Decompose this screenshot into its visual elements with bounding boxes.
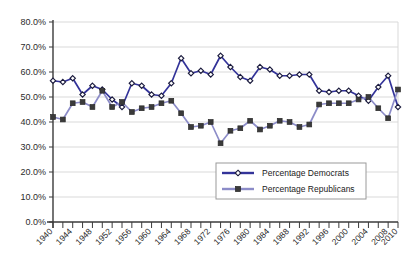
data-point-marker [386, 116, 391, 121]
data-point-marker [51, 115, 56, 120]
data-point-marker [238, 126, 243, 131]
data-point-marker [100, 88, 105, 93]
series-line [53, 56, 398, 107]
x-tick-label: 1940 [34, 226, 55, 247]
data-point-marker [327, 101, 332, 106]
data-point-marker [326, 89, 331, 94]
data-point-marker [70, 101, 75, 106]
data-point-marker [248, 118, 253, 123]
series-line [53, 90, 398, 144]
data-point-marker [159, 101, 164, 106]
x-tick-label: 1956 [113, 226, 134, 247]
y-tick-label: 0.0% [25, 217, 46, 227]
x-tick-label: 1996 [310, 226, 331, 247]
data-point-marker [258, 127, 263, 132]
data-point-marker [297, 125, 302, 130]
x-tick-label: 1972 [192, 226, 213, 247]
data-point-marker [80, 100, 85, 105]
x-tick-label: 1952 [93, 226, 114, 247]
data-point-marker [346, 101, 351, 106]
legend: Percentage DemocratsPercentage Republica… [216, 163, 366, 199]
y-tick-label: 40.0% [20, 117, 46, 127]
data-point-marker [120, 100, 125, 105]
data-point-marker [287, 73, 292, 78]
x-tick-label: 1992 [290, 226, 311, 247]
data-point-marker [198, 123, 203, 128]
y-tick-label: 10.0% [20, 192, 46, 202]
y-tick-label: 80.0% [20, 17, 46, 27]
x-tick-label: 1944 [54, 226, 75, 247]
y-tick-label: 60.0% [20, 67, 46, 77]
data-point-marker [169, 98, 174, 103]
x-axis: 1940194419481952195619601964196819721976… [34, 222, 400, 247]
x-tick-label: 1968 [172, 226, 193, 247]
x-tick-label: 1976 [211, 226, 232, 247]
data-point-marker [50, 78, 55, 83]
series-republicans [51, 87, 401, 146]
x-tick-label: 1960 [133, 226, 154, 247]
data-point-marker [317, 102, 322, 107]
data-point-marker [208, 120, 213, 125]
y-tick-label: 20.0% [20, 167, 46, 177]
data-point-marker [198, 68, 203, 73]
data-point-marker [110, 105, 115, 110]
data-point-marker [228, 128, 233, 133]
footer-cutoff-text [8, 260, 198, 267]
data-point-marker [179, 111, 184, 116]
y-tick-label: 70.0% [20, 42, 46, 52]
data-point-marker [149, 105, 154, 110]
data-point-marker [60, 117, 65, 122]
x-tick-label: 2004 [349, 226, 370, 247]
data-point-marker [218, 141, 223, 146]
x-tick-label: 2000 [330, 226, 351, 247]
x-tick-label: 1980 [231, 226, 252, 247]
legend-label: Percentage Democrats [262, 168, 349, 178]
data-point-marker [129, 110, 134, 115]
x-tick-label: 1948 [73, 226, 94, 247]
percentage-party-line-chart: 0.0%10.0%20.0%30.0%40.0%50.0%60.0%70.0%8… [0, 0, 406, 267]
legend-label: Percentage Republicans [262, 184, 355, 194]
x-tick-label: 1964 [152, 226, 173, 247]
y-tick-label: 30.0% [20, 142, 46, 152]
data-point-marker [297, 72, 302, 77]
legend-marker [235, 186, 240, 191]
y-tick-label: 50.0% [20, 92, 46, 102]
chart-container: 0.0%10.0%20.0%30.0%40.0%50.0%60.0%70.0%8… [0, 0, 406, 267]
data-point-marker [189, 125, 194, 130]
y-axis: 0.0%10.0%20.0%30.0%40.0%50.0%60.0%70.0%8… [20, 17, 53, 228]
data-point-marker [139, 106, 144, 111]
data-point-marker [277, 118, 282, 123]
data-point-marker [60, 79, 65, 84]
data-point-marker [395, 104, 400, 109]
x-tick-label: 1984 [251, 226, 272, 247]
x-tick-label: 1988 [271, 226, 292, 247]
data-point-marker [376, 106, 381, 111]
data-point-marker [336, 88, 341, 93]
data-point-marker [90, 105, 95, 110]
data-point-marker [366, 95, 371, 100]
data-point-marker [287, 120, 292, 125]
data-point-marker [129, 81, 134, 86]
data-point-marker [356, 97, 361, 102]
data-point-marker [267, 123, 272, 128]
data-point-marker [336, 101, 341, 106]
data-point-marker [307, 122, 312, 127]
data-point-marker [396, 87, 401, 92]
